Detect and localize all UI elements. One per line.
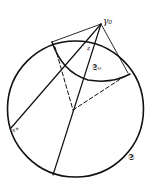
label-outer-circle: 𝔖 [128,152,135,162]
label-apex: γ₀ [103,16,112,26]
secant-line-bottom [53,24,101,175]
geometry-diagram: γ₀ z 𝔖₀ x* 𝔖 [0,0,146,185]
inner-arc [52,42,130,81]
label-inner-circle: 𝔖₀ [92,63,101,72]
label-x-star: x* [12,126,18,133]
secant-line-x-star [11,24,101,128]
dashed-line-left [55,47,73,110]
label-z: z [86,44,91,51]
dashed-line-right [73,78,122,110]
